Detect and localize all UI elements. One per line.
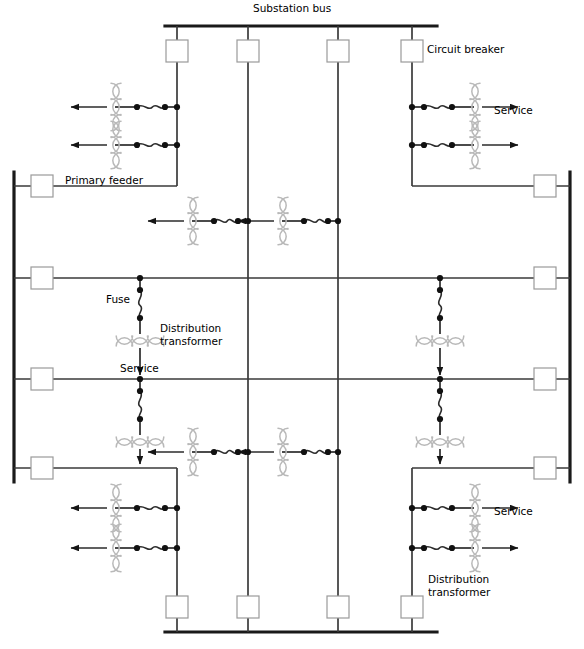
distribution-transformer-icon [116,336,164,346]
fuse-squiggle [137,143,165,146]
fuse-terminal-dot [211,218,217,224]
label-service-bottom-right: Service [494,505,533,517]
breaker-bottom-2[interactable] [237,596,259,618]
breaker-top-3[interactable] [327,40,349,62]
fuse-icon [421,545,455,551]
fuse-squiggle [214,450,238,453]
fuse-terminal-dot [421,104,427,110]
bank-tap-dot [174,545,180,551]
breaker-right-3[interactable] [534,368,556,390]
bank-tap-dot [409,142,415,148]
fuse-terminal-dot [325,449,331,455]
fuse-squiggle [137,105,165,108]
breaker-bottom-1[interactable] [166,596,188,618]
distribution-transformer-icon [416,437,464,447]
inline-tap-dot [245,218,251,224]
fuse-terminal-dot [134,104,140,110]
fuse-icon [137,287,143,321]
fuse-terminal-dot [449,142,455,148]
fuse-terminal-dot [134,142,140,148]
fuse-icon [137,388,143,422]
fuse-terminal-dot [421,142,427,148]
fuse-terminal-dot [137,416,143,422]
label-distribution-transformer-b-line1: Distribution [428,573,489,585]
breaker-bottom-4[interactable] [401,596,423,618]
fuse-terminal-dot [437,388,443,394]
label-service-top-right: Service [494,104,533,116]
fuse-squiggle [424,506,452,509]
fuse-squiggle [137,506,165,509]
breaker-right-1[interactable] [534,175,556,197]
fuse-squiggle [424,143,452,146]
breaker-bottom-3[interactable] [327,596,349,618]
fuse-squiggle [304,450,328,453]
fuse-icon [437,287,443,321]
label-distribution-transformer-line1: Distribution [160,322,221,334]
fuse-terminal-dot [301,218,307,224]
label-distribution-transformer-line2: transformer [160,335,222,347]
fuse-icon [134,142,168,148]
fuse-terminal-dot [137,315,143,321]
bank-tap-dot [409,545,415,551]
fuse-icon [301,218,331,224]
fuse-terminal-dot [437,416,443,422]
fuse-terminal-dot [421,545,427,551]
fuse-terminal-dot [162,505,168,511]
fuse-icon [437,388,443,422]
fuse-terminal-dot [449,505,455,511]
fuse-terminal-dot [449,104,455,110]
fuse-terminal-dot [235,218,241,224]
fuse-terminal-dot [162,545,168,551]
fuse-terminal-dot [211,449,217,455]
inline-tap-dot [245,449,251,455]
fuse-squiggle [137,546,165,549]
fuse-terminal-dot [162,142,168,148]
drop-tap-dot [137,275,143,281]
label-circuit-breaker: Circuit breaker [427,43,504,55]
fuse-squiggle [438,290,441,318]
breaker-left-4[interactable] [31,457,53,479]
fuse-squiggle [214,219,238,222]
breaker-right-2[interactable] [534,267,556,289]
inline-tap-dot [335,449,341,455]
label-primary-feeder: Primary feeder [65,174,143,186]
distribution-transformer-icon [116,437,164,447]
fuse-icon [421,142,455,148]
fuse-squiggle [138,290,141,318]
fuse-squiggle [304,219,328,222]
distribution-network-diagram: Substation bus Circuit breaker Primary f… [0,0,584,649]
distribution-transformer-icon [470,524,480,572]
breaker-right-4[interactable] [534,457,556,479]
fuse-squiggle [138,391,141,419]
fuse-terminal-dot [449,545,455,551]
bank-tap-dot [409,505,415,511]
fuse-terminal-dot [134,545,140,551]
fuse-icon [421,104,455,110]
label-fuse: Fuse [106,293,130,305]
fuse-terminal-dot [437,287,443,293]
fuse-icon [134,545,168,551]
breaker-left-2[interactable] [31,267,53,289]
bank-tap-dot [409,104,415,110]
fuse-icon [134,505,168,511]
breaker-top-4[interactable] [401,40,423,62]
fuse-terminal-dot [301,449,307,455]
breaker-left-1[interactable] [31,175,53,197]
bank-tap-dot [174,142,180,148]
wire-layer [14,26,570,632]
fuse-icon [421,505,455,511]
fuse-terminal-dot [137,287,143,293]
inline-tap-dot [335,218,341,224]
bank-tap-dot [174,104,180,110]
breaker-top-1[interactable] [166,40,188,62]
fuse-terminal-dot [162,104,168,110]
fuse-terminal-dot [134,505,140,511]
label-service-center: Service [120,362,159,374]
distribution-transformer-icon [416,336,464,346]
breaker-top-2[interactable] [237,40,259,62]
drop-tap-dot [437,376,443,382]
label-distribution-transformer-b-line2: transformer [428,586,490,598]
breaker-left-3[interactable] [31,368,53,390]
fuse-icon [211,218,241,224]
fuse-terminal-dot [437,315,443,321]
